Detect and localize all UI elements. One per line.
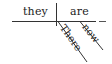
verb-word: are (70, 6, 89, 17)
subject-word: they (23, 6, 48, 17)
sentence-diagram: they are There now (0, 0, 112, 64)
